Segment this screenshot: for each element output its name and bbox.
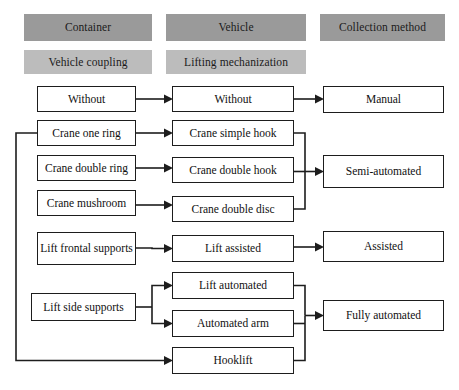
node-lift-automated[interactable]: Lift automated: [172, 272, 294, 299]
node-semi-automated-label: Semi-automated: [346, 165, 421, 178]
node-lift-frontal-supports-label: Lift frontal supports: [40, 242, 133, 256]
header-container: Container: [24, 14, 152, 41]
node-lifting-without-label: Without: [214, 93, 251, 106]
node-crane-simple-hook[interactable]: Crane simple hook: [172, 120, 294, 146]
node-crane-double-hook-label: Crane double hook: [189, 164, 277, 177]
header-vehicle: Vehicle: [166, 14, 306, 41]
node-manual-label: Manual: [366, 93, 401, 106]
node-lift-assisted[interactable]: Lift assisted: [172, 235, 294, 262]
subheader-vehicle-coupling-label: Vehicle coupling: [48, 56, 127, 69]
wire-lift-frontal: [136, 248, 164, 249]
wire-lift-side-to-lift-automated: [152, 286, 164, 308]
flow-diagram: Container Vehicle Collection method Vehi…: [0, 0, 459, 390]
node-crane-mushroom[interactable]: Crane mushroom: [37, 190, 136, 216]
node-manual[interactable]: Manual: [323, 86, 444, 113]
node-coupling-without-label: Without: [68, 93, 105, 106]
node-hooklift-label: Hooklift: [214, 354, 253, 367]
node-crane-one-ring[interactable]: Crane one ring: [37, 120, 136, 146]
header-collection-method: Collection method: [320, 14, 445, 41]
wire-crane-simple-hook-merge: [294, 133, 305, 172]
node-fully-automated-label: Fully automated: [346, 309, 421, 322]
wire-hooklift-merge: [294, 316, 305, 361]
wire-lift-side-to-automated-arm: [152, 307, 164, 324]
node-crane-one-ring-label: Crane one ring: [52, 127, 120, 140]
header-vehicle-label: Vehicle: [218, 21, 253, 34]
node-lift-assisted-label: Lift assisted: [205, 242, 261, 255]
node-crane-double-hook[interactable]: Crane double hook: [172, 157, 294, 183]
node-automated-arm-label: Automated arm: [197, 317, 269, 330]
subheader-lifting-mechanization-label: Lifting mechanization: [184, 56, 288, 69]
header-collection-method-label: Collection method: [339, 21, 426, 34]
node-hooklift[interactable]: Hooklift: [172, 347, 294, 374]
node-lifting-without[interactable]: Without: [172, 86, 294, 112]
node-assisted[interactable]: Assisted: [323, 231, 444, 262]
node-crane-double-disc[interactable]: Crane double disc: [172, 196, 294, 222]
node-automated-arm[interactable]: Automated arm: [172, 310, 294, 337]
node-crane-double-disc-label: Crane double disc: [191, 203, 274, 216]
node-semi-automated[interactable]: Semi-automated: [323, 155, 444, 188]
node-lift-automated-label: Lift automated: [199, 279, 267, 292]
node-lift-side-supports[interactable]: Lift side supports: [31, 293, 136, 321]
wire-crane-double-disc-merge: [294, 172, 305, 210]
subheader-lifting-mechanization: Lifting mechanization: [166, 50, 306, 74]
node-assisted-label: Assisted: [364, 240, 403, 253]
node-crane-double-ring-label: Crane double ring: [45, 162, 128, 175]
node-lift-side-supports-label: Lift side supports: [43, 301, 124, 314]
wire-lift-automated-merge: [294, 286, 305, 316]
header-container-label: Container: [65, 21, 111, 34]
node-crane-simple-hook-label: Crane simple hook: [190, 127, 277, 140]
node-crane-double-ring[interactable]: Crane double ring: [37, 155, 136, 181]
node-coupling-without[interactable]: Without: [37, 86, 136, 112]
node-fully-automated[interactable]: Fully automated: [323, 300, 444, 331]
subheader-vehicle-coupling: Vehicle coupling: [24, 50, 152, 74]
node-lift-frontal-supports[interactable]: Lift frontal supports: [37, 232, 136, 265]
node-crane-mushroom-label: Crane mushroom: [47, 197, 127, 210]
